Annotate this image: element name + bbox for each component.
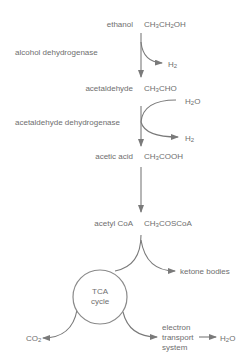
compound-formula-ethanol: CH3CH2OH [144, 20, 186, 29]
compound-name-acetaldehyde: acetaldehyde [85, 84, 133, 93]
co2-label: CO2 [26, 334, 41, 343]
reactant-h2o: H2O [185, 97, 200, 106]
curve-to-tca [115, 235, 141, 271]
ets-label-line2: transport [162, 333, 194, 342]
tca-label-line1: TCA [80, 287, 120, 296]
final-h2o-label: H2O [220, 334, 235, 343]
ets-label-line3: system [162, 343, 187, 352]
compound-formula-acetic-acid: CH3COOH [144, 152, 183, 161]
enzyme-alcohol-dehydrogenase: alcohol dehydrogenase [15, 48, 98, 57]
curve-h2o-in [141, 100, 176, 122]
arrow-to-electron-transport [123, 312, 157, 337]
compound-formula-acetaldehyde: CH3CHO [144, 84, 177, 93]
compound-name-ethanol: ethanol [107, 20, 133, 29]
byproduct-h2-2: H2 [185, 134, 194, 143]
arrow-to-co2 [43, 310, 77, 338]
compound-name-acetyl-coa: acetyl CoA [94, 219, 133, 228]
byproduct-h2-1: H2 [168, 60, 177, 69]
tca-label-line2: cycle [80, 297, 120, 306]
ets-label-line1: electron [162, 323, 190, 332]
enzyme-acetaldehyde-dehydrogenase: acetaldehyde dehydrogenase [15, 118, 120, 127]
arrow-to-ketone-bodies [141, 240, 175, 271]
compound-name-acetic-acid: acetic acid [95, 152, 133, 161]
ketone-bodies-label: ketone bodies [180, 267, 230, 276]
compound-formula-acetyl-coa: CH3COSCoA [144, 219, 192, 228]
arrow-h2-release-1 [141, 42, 162, 63]
arrow-h2-release-2 [141, 122, 178, 137]
